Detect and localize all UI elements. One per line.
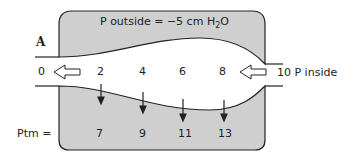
flow-value-0: 0 [38, 65, 45, 78]
flow-value-6: 6 [179, 65, 186, 78]
inside-pressure-label: 10 P inside [277, 66, 337, 79]
ptm-value: 7 [96, 127, 103, 140]
ptm-value: 11 [178, 127, 192, 140]
outflow-arrow-icon [54, 65, 80, 79]
flow-value-8: 8 [219, 65, 226, 78]
flow-value-2: 2 [97, 65, 104, 78]
inflow-arrow-icon [240, 65, 266, 79]
pressure-chamber-lower [59, 86, 265, 150]
ptm-label: Ptm = [17, 127, 51, 140]
ptm-value: 9 [139, 127, 146, 140]
outside-pressure-label: P outside = −5 cm H2O [100, 15, 229, 30]
panel-label: A [36, 35, 45, 49]
ptm-value: 13 [218, 127, 232, 140]
flow-value-4: 4 [139, 65, 146, 78]
